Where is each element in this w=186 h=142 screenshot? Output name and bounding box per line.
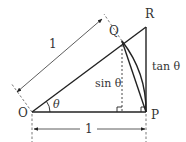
label-Q: Q [109, 24, 119, 38]
label-sin: sin θ [95, 77, 122, 90]
label-P: P [151, 108, 159, 122]
label-R: R [145, 7, 155, 21]
label-radius-oq: 1 [49, 37, 57, 51]
right-angle-marker-foot [117, 107, 122, 112]
label-tan: tan θ [152, 60, 181, 73]
chord-QP [122, 41, 146, 112]
label-O: O [18, 106, 28, 120]
angle-arc [46, 101, 50, 112]
unit-circle-diagram: O P Q R θ 1 1 sin θ tan θ [0, 0, 186, 142]
label-theta: θ [53, 98, 60, 111]
dimension-arrow-oq [17, 19, 102, 92]
label-radius-op: 1 [85, 122, 93, 136]
